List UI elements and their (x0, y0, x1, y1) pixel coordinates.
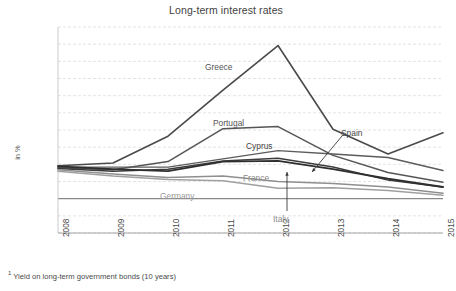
footnote-text: Yield on long-term government bonds (10 … (13, 272, 176, 281)
series-label-spain: Spain (341, 129, 362, 137)
series-label-italy: Italy (273, 215, 288, 223)
series-label-cyprus: Cyprus (246, 142, 273, 150)
footnote-marker: 1 (8, 270, 11, 276)
series-label-greece: Greece (205, 63, 232, 71)
series-label-portugal: Portugal (213, 119, 244, 127)
series-label-germany: Germany (160, 192, 194, 200)
chart-footnote: 1 Yield on long-term government bonds (1… (8, 270, 176, 281)
series-label-france: France (243, 174, 269, 182)
